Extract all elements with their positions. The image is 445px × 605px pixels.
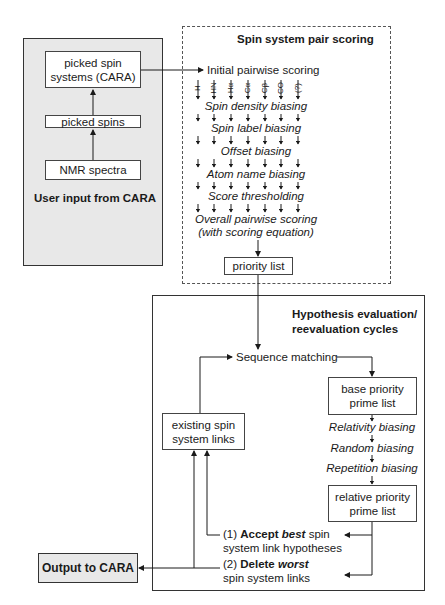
delete-worst: worst: [278, 558, 309, 570]
base-priority-line2: prime list: [349, 396, 395, 410]
accept-best: best: [282, 528, 306, 540]
picked-spins-box: picked spins: [45, 115, 141, 128]
base-priority-box: base priority prime list: [328, 377, 417, 415]
initial-scoring-label: Initial pairwise scoring: [207, 64, 320, 77]
hypothesis-title-line2: reevaluation cycles: [292, 323, 398, 336]
output-to-cara-box: Output to CARA: [38, 553, 138, 583]
column-label-cb: Cβ: [261, 80, 269, 96]
step-random: Random biasing: [312, 442, 432, 455]
existing-links-box: existing spin system links: [162, 413, 245, 450]
step-atom-name: Atom name biasing: [196, 168, 316, 181]
relative-priority-line2: prime list: [349, 504, 395, 518]
user-input-title: User input from CARA: [34, 192, 156, 205]
sequence-matching-label: Sequence matching: [236, 351, 338, 364]
step-spin-label: Spin label biasing: [196, 122, 316, 135]
accept-prefix: (1): [223, 528, 240, 540]
step-repetition: Repetition biasing: [312, 462, 432, 475]
delete-prefix: (2): [223, 558, 240, 570]
step-overall-scoring-note: (with scoring equation): [186, 226, 326, 239]
base-priority-line1: base priority: [341, 382, 404, 396]
column-label-unknown: (?): [294, 80, 302, 96]
accept-best-line2: system link hypotheses: [223, 542, 342, 555]
existing-links-line2: system links: [172, 432, 235, 446]
pair-scoring-title: Spin system pair scoring: [237, 33, 374, 46]
accept-best-label: (1) Accept best spin: [223, 528, 330, 541]
existing-links-line1: existing spin: [172, 418, 235, 432]
priority-list-box: priority list: [224, 257, 293, 275]
step-relativity: Relativity biasing: [312, 421, 432, 434]
column-label-hn: HN: [210, 80, 218, 96]
delete-verb: Delete: [240, 558, 278, 570]
accept-rest: spin: [305, 528, 329, 540]
hypothesis-title-line1: Hypothesis evaluation/: [292, 308, 417, 321]
column-label-ca: Cα: [244, 80, 252, 96]
relative-priority-line1: relative priority: [335, 490, 410, 504]
step-score-threshold: Score thresholding: [196, 190, 316, 203]
accept-verb: Accept: [240, 528, 282, 540]
delete-worst-label: (2) Delete worst: [223, 558, 309, 571]
column-label-co: CO: [277, 80, 285, 96]
column-label-ha: Hα: [227, 80, 235, 96]
relative-priority-box: relative priority prime list: [328, 485, 417, 522]
delete-worst-line2: spin system links: [223, 572, 310, 585]
nmr-spectra-box: NMR spectra: [45, 160, 141, 180]
step-spin-density: Spin density biasing: [196, 100, 316, 113]
step-offset: Offset biasing: [196, 145, 316, 158]
picked-spin-systems-box: picked spin systems (CARA): [45, 51, 141, 88]
step-overall-scoring: Overall pairwise scoring: [186, 213, 326, 226]
column-label-h: H: [194, 80, 202, 96]
